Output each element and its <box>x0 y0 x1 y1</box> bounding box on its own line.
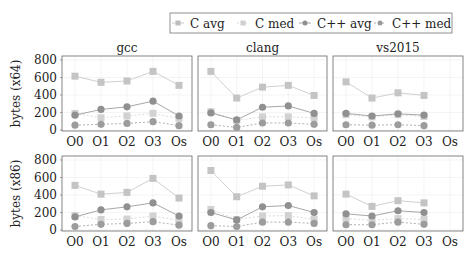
data-point <box>285 102 292 109</box>
x-tick-label: O1 <box>92 135 109 149</box>
data-point <box>207 209 214 216</box>
x-tick-label: O1 <box>228 135 245 149</box>
x-tick-label: O2 <box>254 135 271 149</box>
data-point <box>97 106 104 113</box>
x-tick-label: Os <box>306 135 322 149</box>
data-point <box>285 219 292 226</box>
data-point <box>311 121 318 128</box>
x-tick-label: O0 <box>337 135 354 149</box>
x-tick-label: O0 <box>337 235 354 249</box>
x-tick-label: Os <box>306 235 322 249</box>
circle-marker-icon <box>378 21 383 26</box>
panel-title: clang <box>246 41 279 55</box>
data-point <box>71 112 78 119</box>
series-c-med <box>343 215 428 224</box>
x-tick-label: O0 <box>202 235 219 249</box>
data-point <box>394 110 401 117</box>
data-point <box>368 122 375 129</box>
data-point <box>207 121 214 128</box>
data-point <box>150 175 157 182</box>
data-point <box>149 218 156 225</box>
data-point <box>175 112 182 119</box>
x-tick-label: O3 <box>144 135 161 149</box>
data-point <box>233 193 240 200</box>
x-tick-label: O3 <box>280 135 297 149</box>
data-point <box>342 121 349 128</box>
data-point <box>98 79 105 86</box>
y-tick-label: 200 <box>34 206 57 220</box>
data-point <box>207 222 214 229</box>
x-tick-label: Os <box>171 235 187 249</box>
data-point <box>420 122 427 129</box>
legend: C avgC medC++ avgC++ med <box>170 13 452 33</box>
data-point <box>259 183 266 190</box>
data-point <box>233 223 240 230</box>
series-c-avg <box>343 78 428 101</box>
x-tick-label: O2 <box>389 235 406 249</box>
data-point <box>368 221 375 228</box>
data-point <box>98 191 105 198</box>
data-point <box>176 195 183 202</box>
data-point <box>342 210 349 217</box>
legend-label: C avg <box>190 17 225 31</box>
data-point <box>124 78 131 85</box>
x-tick-label: Os <box>442 235 458 249</box>
y-axis-label: bytes (x86) <box>9 160 23 228</box>
legend-label: C med <box>255 17 294 31</box>
data-point <box>259 84 266 91</box>
data-point <box>71 213 78 220</box>
data-point <box>343 78 350 85</box>
plot-panels: gcc0200400600800bytes (x64)O0O1O2O3Oscla… <box>9 41 463 249</box>
data-point <box>175 222 182 229</box>
data-point <box>259 219 266 226</box>
x-tick-label: O1 <box>228 235 245 249</box>
data-point <box>285 212 292 219</box>
data-point <box>394 219 401 226</box>
data-point <box>285 202 292 209</box>
x-tick-label: O2 <box>118 135 135 149</box>
series-c-avg <box>343 191 428 210</box>
x-tick-label: O2 <box>389 135 406 149</box>
data-point <box>421 199 428 206</box>
data-point <box>150 68 157 75</box>
data-point <box>97 206 104 213</box>
data-point <box>233 216 240 223</box>
data-point <box>420 112 427 119</box>
data-point <box>259 113 266 120</box>
data-point <box>395 197 402 204</box>
y-axis-label: bytes (x64) <box>9 60 23 128</box>
data-point <box>97 121 104 128</box>
x-tick-label: O2 <box>254 235 271 249</box>
data-point <box>175 212 182 219</box>
data-point <box>97 221 104 228</box>
data-point <box>72 73 79 80</box>
data-point <box>311 110 318 117</box>
data-point <box>123 103 130 110</box>
data-point <box>175 122 182 129</box>
data-point <box>369 95 376 102</box>
series-cpp-avg <box>342 110 427 120</box>
x-tick-label: Os <box>171 135 187 149</box>
data-point <box>150 110 157 117</box>
data-point <box>285 82 292 89</box>
plot-panel: vs2015O0O1O2O3Os <box>333 41 463 149</box>
data-point <box>72 182 79 189</box>
y-tick-label: 200 <box>34 106 57 120</box>
data-point <box>394 121 401 128</box>
x-tick-label: O3 <box>144 235 161 249</box>
y-tick-label: 600 <box>34 71 57 85</box>
x-tick-label: O0 <box>66 135 83 149</box>
y-tick-label: 400 <box>34 188 57 202</box>
data-point <box>311 209 318 216</box>
data-point <box>368 112 375 119</box>
data-point <box>369 203 376 210</box>
data-point <box>71 122 78 129</box>
data-point <box>207 167 214 174</box>
data-point <box>123 203 130 210</box>
series-cpp-avg <box>342 207 427 219</box>
data-point <box>259 213 266 220</box>
square-marker-icon <box>241 21 246 26</box>
data-point <box>421 92 428 99</box>
data-point <box>207 68 214 75</box>
y-tick-label: 800 <box>34 53 57 67</box>
